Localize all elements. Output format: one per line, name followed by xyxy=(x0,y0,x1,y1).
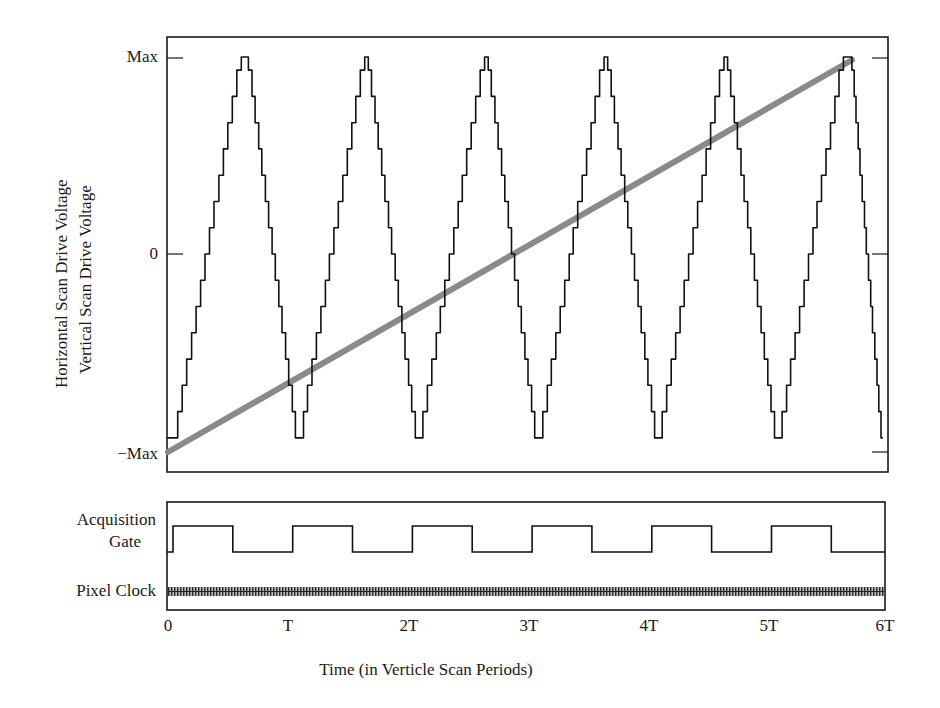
scan-timing-figure: Horizontal Scan Drive Voltage Vertical S… xyxy=(0,0,940,708)
vertical-scan-ramp xyxy=(168,60,852,452)
plot-area xyxy=(0,0,940,708)
acquisition-gate-wave xyxy=(167,526,885,552)
